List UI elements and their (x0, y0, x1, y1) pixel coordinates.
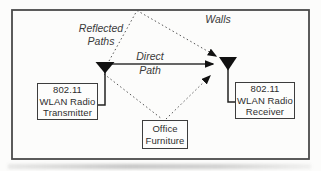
receiver-box: 802.11 WLAN Radio Receiver (235, 82, 295, 119)
transmitter-box: 802.11 WLAN Radio Transmitter (37, 83, 98, 120)
furniture-label-line2: Furniture (146, 135, 185, 147)
transmitter-label-line2: WLAN Radio (40, 96, 96, 108)
diagram-canvas: 802.11 WLAN Radio Transmitter 802.11 WLA… (0, 0, 321, 171)
walls-label: Walls (200, 13, 236, 26)
furniture-label-line1: Office (152, 123, 177, 135)
transmitter-antenna-icon (96, 62, 115, 74)
transmitter-label-line3: Transmitter (43, 107, 92, 119)
receiver-antenna-icon (219, 57, 237, 71)
transmitter-antenna-mast (97, 71, 105, 105)
reflected-paths-label: Reflected Paths (72, 22, 130, 48)
receiver-label-line1: 802.11 (251, 83, 280, 95)
transmitter-label-line1: 802.11 (53, 84, 82, 96)
furniture-box: Office Furniture (142, 120, 188, 149)
furniture-reflected-path-down-segment (104, 74, 162, 119)
direct-path-label: Direct Path (128, 50, 172, 77)
receiver-label-line2: WLAN Radio (237, 95, 293, 107)
furniture-reflected-path-up-segment (166, 76, 210, 119)
receiver-label-line3: Receiver (246, 106, 284, 118)
scan-shadow-artifact (8, 164, 311, 169)
